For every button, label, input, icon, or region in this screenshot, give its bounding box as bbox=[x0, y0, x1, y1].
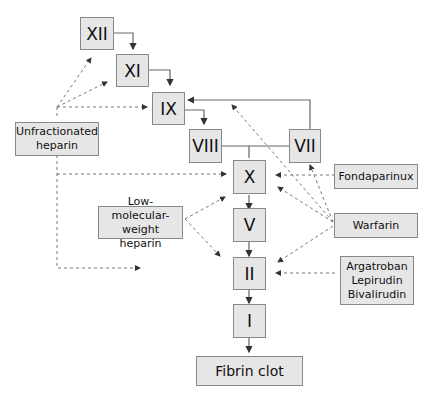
factor-v: V bbox=[233, 208, 266, 242]
drug-bivalirudin: Bivalirudin bbox=[348, 288, 406, 302]
factor-xi: XI bbox=[116, 54, 149, 87]
factor-viii: VIII bbox=[189, 129, 222, 163]
factor-x: X bbox=[233, 160, 266, 194]
factor-ix: IX bbox=[152, 92, 185, 125]
factor-xii: XII bbox=[80, 17, 114, 50]
drug-lmwh: Low-molecular-weight heparin bbox=[98, 206, 183, 239]
drug-argatroban: Argatroban bbox=[346, 260, 408, 274]
drug-direct-thrombin-inhibitors: Argatroban Lepirudin Bivalirudin bbox=[340, 256, 414, 305]
factor-ii: II bbox=[233, 257, 266, 290]
factor-i: I bbox=[233, 304, 266, 338]
fibrin-clot: Fibrin clot bbox=[196, 356, 303, 386]
drug-lepirudin: Lepirudin bbox=[351, 274, 402, 288]
drug-warfarin: Warfarin bbox=[334, 213, 418, 238]
coagulation-diagram: XII XI IX VIII VII X V II I Fibrin clot … bbox=[0, 0, 430, 397]
factor-vii: VII bbox=[289, 129, 321, 163]
drug-fondaparinux: Fondaparinux bbox=[334, 164, 418, 189]
drug-unfractionated-heparin: Unfractionated heparin bbox=[15, 122, 99, 156]
connectors bbox=[0, 0, 430, 397]
